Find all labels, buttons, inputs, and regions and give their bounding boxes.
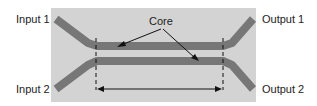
label-input-1: Input 1	[16, 13, 50, 25]
label-input-2: Input 2	[16, 83, 50, 95]
label-output-2: Output 2	[262, 83, 304, 95]
label-core: Core	[149, 15, 173, 27]
label-output-1: Output 1	[262, 13, 304, 25]
